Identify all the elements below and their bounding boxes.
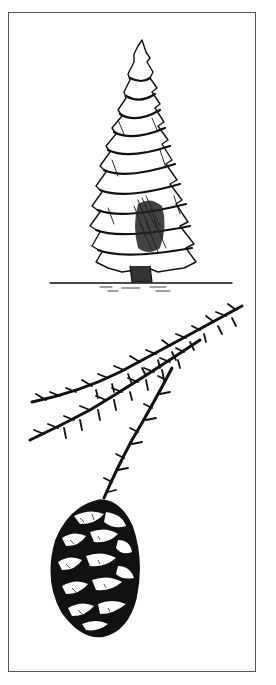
seed-cone <box>51 500 139 637</box>
botanical-illustration <box>0 0 276 685</box>
foliage-branch <box>30 304 242 498</box>
conifer-tree <box>50 40 232 291</box>
